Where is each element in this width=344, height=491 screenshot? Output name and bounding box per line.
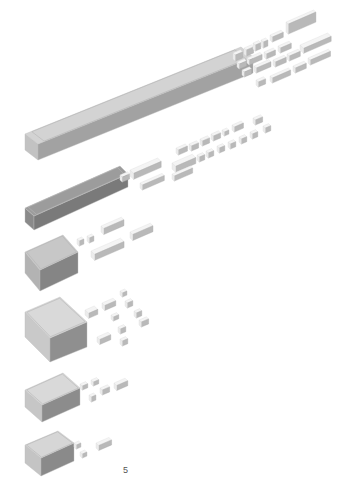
volume-group-row-4 <box>25 289 149 362</box>
exploded-isometric-diagram <box>0 0 344 491</box>
room-block <box>134 309 142 319</box>
room-block <box>189 141 199 151</box>
block-side-face <box>286 22 288 34</box>
room-block <box>120 289 127 297</box>
room-blocks <box>120 115 271 190</box>
room-block <box>206 149 214 159</box>
room-block <box>111 313 119 322</box>
room-block <box>264 48 275 59</box>
room-block <box>77 237 84 246</box>
room-block <box>139 317 149 327</box>
volume-group-row-5 <box>25 373 128 422</box>
container-top-face <box>25 47 253 144</box>
room-block <box>197 153 205 163</box>
room-block <box>101 217 124 234</box>
room-block <box>228 140 236 150</box>
container-volume <box>25 166 128 230</box>
room-block <box>261 38 268 48</box>
room-block <box>96 437 112 450</box>
room-block <box>91 378 99 387</box>
room-block <box>80 382 88 391</box>
room-block <box>130 223 153 240</box>
room-blocks <box>85 289 149 346</box>
room-block <box>244 45 254 56</box>
container-volume <box>25 297 87 362</box>
room-block <box>74 441 81 449</box>
room-block <box>253 115 263 125</box>
room-block <box>118 325 126 335</box>
room-block <box>100 385 110 395</box>
container-volume <box>25 431 74 476</box>
room-block <box>102 298 116 310</box>
volume-group-row-1 <box>25 10 331 160</box>
room-blocks <box>77 217 153 260</box>
room-block <box>114 378 128 390</box>
room-block <box>287 49 300 61</box>
room-blocks <box>74 437 112 458</box>
room-block <box>217 144 225 154</box>
room-block <box>87 234 94 243</box>
room-block <box>308 49 330 65</box>
room-block <box>278 41 291 53</box>
room-block <box>200 136 210 146</box>
volume-group-row-3 <box>25 217 153 291</box>
room-block <box>270 68 291 83</box>
room-block <box>256 77 266 87</box>
volume-group-row-6 <box>25 431 112 476</box>
room-block <box>239 135 247 145</box>
room-block <box>270 30 283 42</box>
room-block <box>211 131 221 141</box>
room-block <box>85 306 98 318</box>
room-block <box>250 130 258 140</box>
container-volume <box>25 47 253 160</box>
room-block <box>120 337 128 347</box>
room-blocks <box>233 10 331 87</box>
room-block <box>91 238 124 260</box>
room-block <box>140 173 164 190</box>
room-block <box>253 41 261 52</box>
room-block <box>293 61 306 73</box>
room-blocks <box>80 378 128 403</box>
room-block <box>97 332 111 344</box>
room-block <box>89 393 96 402</box>
room-block <box>263 124 271 134</box>
page-number: 5 <box>123 465 128 475</box>
container-volume <box>25 235 78 291</box>
room-block <box>222 128 229 136</box>
room-block <box>232 121 243 132</box>
room-block <box>286 10 316 34</box>
container-volume <box>25 373 80 422</box>
room-block <box>80 450 87 458</box>
room-block <box>273 55 286 67</box>
room-block <box>176 144 187 155</box>
room-block <box>125 299 133 309</box>
